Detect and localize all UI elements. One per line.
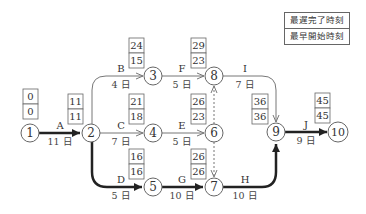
time-box-node-2: 11 11 xyxy=(68,94,83,124)
node-7: 7 xyxy=(205,178,223,196)
time-box-node-9: 36 36 xyxy=(252,94,268,124)
svg-text:8: 8 xyxy=(210,69,218,83)
svg-text:6: 6 xyxy=(210,126,218,140)
activity-f-duration: 5 日 xyxy=(172,79,191,90)
latest-finish-node-6: 26 xyxy=(192,96,205,107)
node-1: 1 xyxy=(21,124,39,142)
latest-finish-node-7: 26 xyxy=(192,151,205,162)
node-3: 3 xyxy=(144,67,162,85)
earliest-start-node-8: 23 xyxy=(192,55,205,66)
activity-c-duration: 7 日 xyxy=(111,136,130,147)
activity-e-name: E xyxy=(178,120,185,131)
latest-finish-node-3: 24 xyxy=(130,40,143,51)
latest-finish-node-8: 29 xyxy=(192,40,205,51)
latest-finish-node-1: 0 xyxy=(27,91,33,102)
legend-box: 最遅完了時刻 最早開始時刻 xyxy=(284,12,350,45)
svg-text:9: 9 xyxy=(272,125,280,139)
activity-i-duration: 7 日 xyxy=(235,79,254,90)
earliest-start-node-7: 26 xyxy=(192,166,205,177)
svg-text:3: 3 xyxy=(149,69,157,83)
svg-text:7: 7 xyxy=(210,180,218,194)
activity-c-name: C xyxy=(117,120,125,131)
node-4: 4 xyxy=(144,124,162,142)
latest-finish-node-10: 45 xyxy=(316,95,329,106)
activity-a-name: A xyxy=(55,120,64,131)
activity-h-name: H xyxy=(241,174,250,185)
time-box-node-4: 21 18 xyxy=(129,94,144,124)
arrow-h xyxy=(223,144,276,187)
activity-b-name: B xyxy=(117,63,124,74)
activity-d-duration: 5 日 xyxy=(111,190,130,201)
activity-b-duration: 4 日 xyxy=(111,79,130,90)
activity-h-duration: 10 日 xyxy=(232,190,257,201)
latest-finish-node-5: 16 xyxy=(130,151,143,162)
time-box-node-8: 29 23 xyxy=(191,38,206,68)
earliest-start-node-4: 18 xyxy=(130,111,143,122)
activity-f-name: F xyxy=(179,63,186,74)
svg-text:5: 5 xyxy=(149,180,157,194)
activity-j-name: J xyxy=(303,119,308,130)
latest-finish-node-2: 11 xyxy=(69,96,82,107)
earliest-start-node-1: 0 xyxy=(27,106,33,117)
earliest-start-node-2: 11 xyxy=(69,111,82,122)
latest-finish-node-4: 21 xyxy=(130,96,143,107)
time-box-node-3: 24 15 xyxy=(129,38,144,68)
earliest-start-node-6: 23 xyxy=(192,111,205,122)
time-box-node-1: 0 0 xyxy=(23,89,38,119)
earliest-start-node-9: 36 xyxy=(254,111,267,122)
time-box-node-5: 16 16 xyxy=(129,149,144,179)
legend-earliest-start: 最早開始時刻 xyxy=(285,28,349,44)
activity-j-duration: 9 日 xyxy=(296,135,315,146)
svg-text:10: 10 xyxy=(331,126,345,139)
activity-g-duration: 10 日 xyxy=(169,190,194,201)
node-10: 10 xyxy=(328,122,348,142)
earliest-start-node-5: 16 xyxy=(130,166,143,177)
svg-text:1: 1 xyxy=(26,126,34,140)
activity-i-name: I xyxy=(243,63,247,74)
activity-a-duration: 11 日 xyxy=(47,136,72,147)
legend-latest-finish: 最遅完了時刻 xyxy=(285,13,349,28)
time-box-node-7: 26 26 xyxy=(191,149,206,179)
activity-g-name: G xyxy=(178,174,186,185)
svg-text:4: 4 xyxy=(149,126,157,140)
node-6: 6 xyxy=(205,124,223,142)
earliest-start-node-3: 15 xyxy=(130,55,143,66)
activity-e-duration: 5 日 xyxy=(172,136,191,147)
earliest-start-node-10: 45 xyxy=(316,110,329,121)
node-9: 9 xyxy=(267,123,285,141)
time-box-node-6: 26 23 xyxy=(191,94,206,124)
time-box-node-10: 45 45 xyxy=(315,93,330,123)
node-8: 8 xyxy=(205,67,223,85)
activity-d-name: D xyxy=(117,174,125,185)
node-2: 2 xyxy=(82,124,100,142)
svg-text:2: 2 xyxy=(87,126,95,140)
latest-finish-node-9: 36 xyxy=(254,96,267,107)
node-5: 5 xyxy=(144,178,162,196)
